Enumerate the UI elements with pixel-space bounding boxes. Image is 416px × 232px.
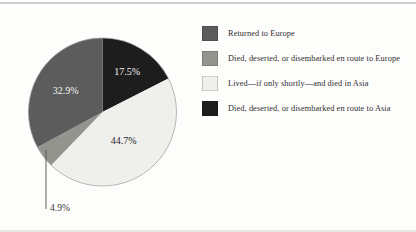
legend-swatch bbox=[202, 26, 218, 41]
legend: Returned to Europe Died, deserted, or di… bbox=[202, 26, 400, 126]
legend-swatch bbox=[202, 101, 218, 116]
legend-item-died-en-route-asia: Died, deserted, or disembarked en route … bbox=[202, 101, 400, 116]
legend-swatch bbox=[202, 51, 218, 66]
legend-item-label: Died, deserted, or disembarked en route … bbox=[228, 54, 400, 63]
pie-slice-label: 32.9% bbox=[53, 85, 79, 96]
pie-slice-label: 17.5% bbox=[114, 66, 140, 77]
page: 17.5%44.7%32.9% 4.9% Returned to Europe … bbox=[0, 0, 416, 232]
legend-item-died-en-route-europe: Died, deserted, or disembarked en route … bbox=[202, 51, 400, 66]
pie-external-label: 4.9% bbox=[50, 203, 70, 213]
legend-swatch bbox=[202, 76, 218, 91]
legend-item-label: Lived—if only shortly—and died in Asia bbox=[228, 79, 368, 88]
legend-item-label: Returned to Europe bbox=[228, 29, 295, 38]
pie-slice-label: 44.7% bbox=[111, 135, 137, 146]
legend-item-returned-to-europe: Returned to Europe bbox=[202, 26, 400, 41]
legend-item-lived-died-in-asia: Lived—if only shortly—and died in Asia bbox=[202, 76, 400, 91]
pie-slices: 17.5%44.7%32.9% bbox=[29, 38, 177, 186]
legend-item-label: Died, deserted, or disembarked en route … bbox=[228, 104, 391, 113]
bottom-rule bbox=[0, 230, 416, 232]
